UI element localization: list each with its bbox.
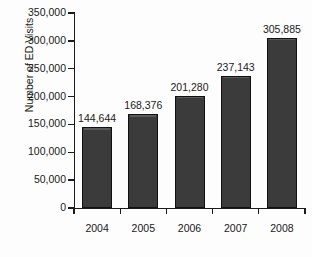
x-axis-tick xyxy=(258,208,259,214)
y-axis-tick-label: 200,000 xyxy=(0,90,66,102)
y-axis-tick xyxy=(68,96,74,97)
bar-chart: Number of ED Visits 050,000100,000150,00… xyxy=(0,0,312,257)
y-axis-tick-label: 300,000 xyxy=(0,34,66,46)
x-axis-tick xyxy=(304,208,305,214)
y-axis-tick xyxy=(68,179,74,180)
y-axis-tick-label: 0 xyxy=(0,201,66,213)
bar-value-label: 305,885 xyxy=(247,23,312,35)
y-axis-line xyxy=(74,12,75,209)
bar xyxy=(128,114,158,208)
bar xyxy=(175,96,205,208)
x-axis-tick xyxy=(73,208,74,214)
y-axis-tick-label: 150,000 xyxy=(0,117,66,129)
x-axis-tick xyxy=(212,208,213,214)
x-axis-tick xyxy=(120,208,121,214)
y-axis-tick xyxy=(68,68,74,69)
y-axis-tick xyxy=(68,40,74,41)
bar-value-label: 201,280 xyxy=(155,81,225,93)
y-axis-tick-label: 50,000 xyxy=(0,173,66,185)
y-axis-tick-label: 100,000 xyxy=(0,145,66,157)
bar-value-label: 144,644 xyxy=(62,112,132,124)
x-axis-category-label: 2008 xyxy=(252,222,312,234)
x-axis-tick xyxy=(166,208,167,214)
y-axis-tick-label: 350,000 xyxy=(0,6,66,18)
y-axis-tick xyxy=(68,152,74,153)
bar-value-label: 237,143 xyxy=(201,61,271,73)
y-axis-tick xyxy=(68,12,74,13)
bar xyxy=(267,38,297,208)
bar-value-label: 168,376 xyxy=(108,99,178,111)
bar xyxy=(221,76,251,208)
y-axis-tick-label: 250,000 xyxy=(0,62,66,74)
bar xyxy=(82,127,112,208)
